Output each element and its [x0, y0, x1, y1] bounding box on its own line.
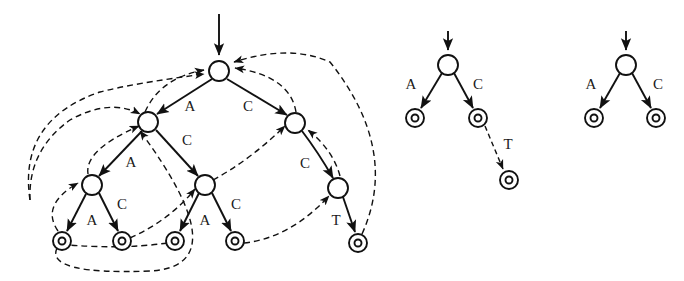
edge-CC-CCT — [343, 197, 355, 232]
nodes-main-internal — [82, 61, 348, 198]
edge-AA-AAC — [99, 193, 118, 231]
panel-main: A C C A A C A C C T — [28, 14, 375, 272]
edge-label-AC-ACA: A — [200, 212, 211, 228]
mid-node-A[interactable] — [406, 109, 424, 127]
node-AC[interactable] — [195, 175, 215, 195]
edge-label-AC-ACC: C — [231, 196, 241, 212]
edge-AC-ACC — [212, 193, 231, 231]
nodes-main-accept — [53, 232, 367, 252]
node-root[interactable] — [209, 61, 229, 81]
edge-label-AA-AAC: C — [117, 196, 127, 212]
edge-AA-AAA — [67, 194, 86, 231]
edge-label-root-A: A — [185, 98, 196, 114]
fail-ACC-CC — [244, 196, 329, 243]
fail-AAA-AA — [52, 183, 78, 231]
edge-label-C-CC: C — [300, 155, 310, 171]
edge-label-A-AC: C — [182, 132, 192, 148]
panel-right: A C — [585, 31, 665, 127]
mid-edge-root-A — [421, 73, 442, 108]
fail-AC-C — [213, 126, 285, 180]
right-edge-root-C — [632, 73, 651, 108]
node-A[interactable] — [138, 112, 158, 132]
right-node-C[interactable] — [647, 109, 665, 127]
node-AAC[interactable] — [113, 232, 131, 250]
panel-mid: A C T — [406, 31, 518, 189]
fail-long-left-root — [28, 74, 204, 200]
mid-node-root[interactable] — [438, 55, 458, 75]
mid-edge-label-A: A — [406, 76, 417, 92]
mid-edge-label-C: C — [473, 76, 483, 92]
fail-bottom-sweep — [57, 243, 167, 247]
right-node-root[interactable] — [616, 55, 636, 75]
fail-CCT-root — [234, 53, 375, 234]
mid-edge-C-T-dashed — [485, 126, 503, 169]
mid-edge-root-C — [454, 73, 473, 108]
right-edge-root-A — [600, 73, 620, 108]
node-ACA[interactable] — [166, 232, 184, 250]
edge-label-A-AA: A — [126, 154, 137, 170]
edge-label-AA-AAA: A — [87, 212, 98, 228]
right-edge-label-C: C — [653, 76, 663, 92]
edge-label-root-C: C — [243, 98, 253, 114]
node-C[interactable] — [285, 113, 305, 133]
right-node-A[interactable] — [585, 109, 603, 127]
trie-edges-main — [67, 79, 355, 232]
figure-canvas: A C C A A C A C C T — [0, 0, 684, 281]
fail-CC-C — [308, 130, 340, 176]
node-AA[interactable] — [82, 175, 102, 195]
right-edge-label-A: A — [586, 76, 597, 92]
edge-label-CC-CCT: T — [331, 212, 340, 228]
automaton-diagram: A C C A A C A C C T — [0, 0, 684, 281]
edge-AC-ACA — [180, 193, 199, 231]
node-CC[interactable] — [328, 178, 348, 198]
node-AAA[interactable] — [53, 232, 71, 250]
mid-node-C[interactable] — [469, 109, 487, 127]
mid-edge-label-T: T — [503, 136, 512, 152]
node-ACC[interactable] — [226, 232, 244, 250]
node-CCT[interactable] — [349, 234, 367, 252]
edge-root-C — [227, 79, 287, 115]
mid-node-T[interactable] — [500, 171, 518, 189]
fail-AAC-AC — [130, 189, 195, 238]
